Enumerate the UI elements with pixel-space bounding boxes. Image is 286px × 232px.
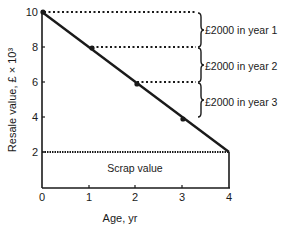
point-year-2 — [134, 81, 139, 86]
x-tick-label-0: 0 — [39, 191, 45, 203]
scrap-value-label: Scrap value — [107, 162, 163, 174]
x-tick-label-1: 1 — [86, 191, 92, 203]
point-year-3 — [180, 116, 185, 121]
y-tick-label-10: 10 — [26, 6, 38, 18]
x-tick-label-2: 2 — [132, 191, 138, 203]
y-tick-label-4: 4 — [32, 111, 38, 123]
braces — [198, 13, 204, 117]
depreciation-chart: 10 8 6 4 2 0 1 2 3 4 Age, yr Resale valu… — [0, 0, 286, 232]
y-axis-title: Resale value, £ × 10³ — [6, 48, 18, 153]
brace-year-1 — [198, 13, 204, 47]
x-tick-label-3: 3 — [179, 191, 185, 203]
brace-year-2 — [198, 48, 204, 82]
annotation-year-3: £2000 in year 3 — [205, 96, 278, 108]
x-tick-label-4: 4 — [226, 191, 232, 203]
y-tick-label-2: 2 — [32, 146, 38, 158]
x-axis-title: Age, yr — [103, 212, 138, 224]
annotation-year-2: £2000 in year 2 — [205, 60, 278, 72]
point-year-1 — [89, 45, 94, 50]
y-tick-label-8: 8 — [32, 41, 38, 53]
point-year-0 — [40, 9, 45, 14]
brace-year-3 — [198, 83, 204, 117]
y-tick-label-6: 6 — [32, 76, 38, 88]
annotation-year-1: £2000 in year 1 — [205, 24, 278, 36]
